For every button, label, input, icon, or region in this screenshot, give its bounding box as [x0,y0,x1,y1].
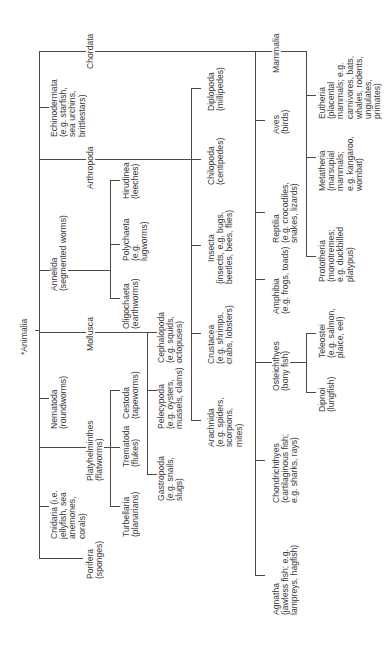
connector-arthropoda [39,159,191,160]
connector-reptilia [255,212,265,213]
connector-diplopoda [191,88,201,89]
node-mollusca: Mollusca [86,316,95,352]
node-pelecypoda: Pelecypoda(e.g. oysters, mussels, clams) [157,366,185,430]
connector-echinodermata [39,107,49,108]
node-insecta: Insecta(insects, e.g. bugs, beetles, bee… [207,209,235,285]
node-crustacea: Crustacea(e.g. shrimps, crabs, lobsters) [207,304,235,365]
connector-mammalia-trunk [306,51,307,256]
connector-aves [255,120,265,121]
connector-chordata-trunk [255,51,256,575]
node-dipnoi: Dipnoi(lungfish) [318,376,336,413]
connector-osteichthyes-trunk [306,333,307,392]
node-chondrichthyes: Chondrichthyes(cartilaginous fish; e.g. … [272,433,300,504]
connector-agnatha [255,575,265,576]
connector-amphibia [255,279,265,280]
connector-cnidaria [39,506,49,507]
connector-polychaeta [110,244,120,245]
connector-hirudinea [110,180,120,181]
node-aves: Aves(birds) [272,109,290,135]
connector-teleostei [306,333,316,334]
node-eutheria: Eutheria(placental mammals; e.g. carnivo… [318,55,382,120]
node-nematoda: Nematoda(roundworms) [50,375,68,430]
connector-chordata [39,51,255,52]
connector-turbellaria [110,506,120,507]
node-gastropoda: Gastropoda(e.g. snails, slugs) [157,455,185,502]
node-platyhelminthes: Platyhelminthes(flatworms) [86,419,104,482]
node-osteichthyes: Osteichthyes(bony fish) [272,340,290,392]
node-annelida: Annelida(segmented worms) [50,214,68,292]
node-prototheria: Prototheria(monotremes; e.g. duckbilled … [318,226,355,283]
node-hirudinea: Hirudinea(leeches) [122,161,140,200]
node-arachnida: Arachnida(e.g. spiders, scorpions, mites… [207,396,244,448]
node-agnatha: Agnatha(jawless fish; e.g. lampreys, hag… [272,544,300,616]
node-cnidaria: Cnidaria (i.e.jellyfish, sea anemones, c… [50,489,87,540]
connector-chondrichthyes [255,460,265,461]
connector-mollusca-trunk [147,332,148,474]
node-cephalopoda: Cephalopoda(e.g. squids, octopuses) [157,311,185,364]
connector-platyhelminthes-trunk [110,390,111,506]
node-chilopoda: Chilopoda(centipedes) [207,137,225,186]
connector-annelida-trunk [110,180,111,298]
node-teleostei: Teleostei(e.g. salmon, plaice, eel) [318,307,346,359]
node-metatheria: Metatheria(marsupial mammals; e.g. kanga… [318,135,364,192]
connector-crustacea [191,333,201,334]
node-cestoda: Cestoda(tapeworms) [122,370,140,420]
node-turbellaria: Turbellaria(planarians) [122,491,140,538]
node-animalia: *Animalia [20,318,29,356]
node-animalia-name: *Animalia [19,319,29,355]
connector-dipnoi [306,392,316,393]
connector-arachnida [191,420,201,421]
connector-insecta [191,245,201,246]
node-mammalia: Mammalia [272,32,281,74]
node-trematoda: Trematoda(flukes) [122,425,140,468]
node-polychaeta: Polychaeta(e.g. lugworms) [122,217,150,262]
connector-prototheria [306,256,316,257]
node-chordata: Chordata [86,33,95,70]
connector-porifera [39,558,83,559]
connector-chilopoda [191,159,201,160]
connector-eutheria [306,95,316,96]
node-arthropoda: Arthropoda [86,145,95,190]
node-amphibia: Amphibia(e.g. frogs, toads) [272,246,290,315]
connector-metatheria [306,157,316,158]
connector-oligochaeta [110,298,120,299]
node-reptilia: Reptilia(e.g. crocodiles, snakes, lizard… [272,181,300,244]
connector-arthropoda-trunk [191,88,192,420]
node-porifera: Porifera(sponges) [86,540,104,580]
connector-phyla-trunk [39,51,40,558]
connector-cestoda [110,390,120,391]
connector-nematoda [39,398,49,399]
node-echinodermata: Echinodermata(e.g. starfish, sea urchins… [50,78,87,138]
connector-trematoda [110,447,120,448]
node-diplopoda: Diplopoda(millipedes) [207,66,225,112]
node-oligochaeta: Oligochaeta(earthworms) [122,277,140,330]
